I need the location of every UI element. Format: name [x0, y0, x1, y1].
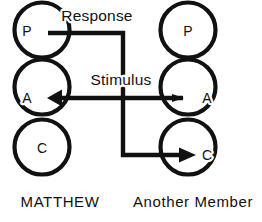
- transactional-analysis-diagram: P A C P A C Response Stimulus MATTHEW An…: [0, 0, 262, 222]
- ego-letter-adult-right: A: [202, 90, 212, 106]
- ta-diagram-container: P A C P A C Response Stimulus MATTHEW An…: [0, 0, 262, 222]
- ego-letter-child-right: C: [202, 147, 212, 163]
- stimulus-label: Stimulus: [90, 71, 151, 88]
- ego-state-circle-adult-right[interactable]: [161, 60, 216, 115]
- ego-letter-adult-left: A: [22, 90, 32, 106]
- response-label: Response: [61, 7, 132, 24]
- ego-state-letters: P A C P A C: [22, 23, 212, 163]
- person-label-right: Another Member: [133, 193, 253, 210]
- stimulus-tail-tick-icon: [172, 94, 184, 102]
- person-label-left: MATTHEW: [21, 193, 100, 210]
- response-arrowhead-icon: [179, 148, 196, 163]
- ego-state-circle-adult-left[interactable]: [15, 60, 70, 115]
- ego-letter-parent-left: P: [22, 23, 31, 39]
- transaction-labels: Response Stimulus: [61, 7, 151, 88]
- ego-letter-child-left: C: [37, 140, 47, 156]
- stimulus-arrowhead-icon: [47, 90, 62, 107]
- person-labels: MATTHEW Another Member: [21, 193, 254, 210]
- ego-letter-parent-right: P: [183, 23, 192, 39]
